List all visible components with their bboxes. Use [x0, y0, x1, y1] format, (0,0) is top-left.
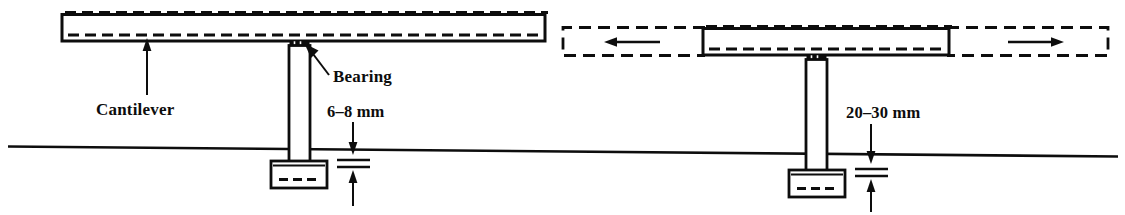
- bearing-annotation: Bearing: [305, 44, 393, 87]
- left-gap-label: 6–8 mm: [327, 102, 385, 121]
- movement-arrow-right: [1008, 37, 1064, 47]
- arrow-down-icon: [867, 151, 876, 164]
- left-pier-group: [271, 46, 327, 189]
- ground-line-group: [8, 147, 1118, 157]
- movement-arrow-left: [604, 37, 660, 47]
- ground-line: [8, 147, 1118, 157]
- arrow-up-icon: [349, 170, 358, 183]
- right-deck-outline: [703, 29, 949, 56]
- cantilever-label: Cantilever: [96, 100, 175, 119]
- arrow-right-icon: [1051, 37, 1064, 47]
- bearing-label: Bearing: [333, 67, 392, 86]
- diagram-canvas: Cantilever Bearing 6–8 mm: [0, 0, 1125, 215]
- left-deck-group: [62, 13, 548, 42]
- left-deck-outline: [62, 15, 545, 42]
- left-pier-column: [289, 46, 310, 162]
- right-gap-label: 20–30 mm: [846, 103, 921, 122]
- right-deck-group: [703, 27, 952, 56]
- bridge-bearing-diagram: Cantilever Bearing 6–8 mm: [0, 0, 1125, 215]
- arrow-up-icon: [867, 179, 876, 192]
- left-gap-dimension: 6–8 mm: [327, 102, 385, 206]
- right-pier-column: [806, 60, 827, 171]
- arrow-left-icon: [604, 37, 617, 47]
- cantilever-annotation: Cantilever: [96, 38, 175, 119]
- right-pier-group: [789, 60, 845, 198]
- right-gap-dimension: 20–30 mm: [846, 103, 921, 212]
